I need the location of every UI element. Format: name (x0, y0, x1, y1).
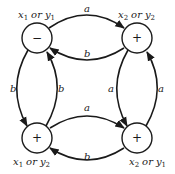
edge-label-right-inner-a: a (108, 83, 114, 94)
edge-tl-to-tr-a (49, 15, 124, 28)
transition-diagram: a b b b a a a b − + + + x1ory1 x2ory2 (0, 0, 175, 174)
node-top-left: − (22, 23, 52, 53)
edge-br-to-tr-a (146, 52, 157, 126)
edge-label-bottom-b: b (84, 151, 90, 162)
edge-label-bottom-a: a (84, 102, 90, 113)
edge-bl-to-br-a (50, 116, 124, 128)
plus-sign: + (132, 31, 142, 45)
minus-sign: − (32, 31, 42, 45)
edge-label-right-outer-a: a (158, 83, 164, 94)
node-label-bottom-left: x1ory2 (13, 156, 50, 169)
edge-label-top-b: b (84, 48, 90, 59)
edge-label-top-a: a (84, 3, 90, 14)
plus-sign: + (32, 131, 42, 145)
node-label-top-right: x2ory2 (118, 9, 155, 22)
edge-bl-to-tl-b (46, 52, 57, 126)
edge-label-left-inner-b: b (58, 83, 64, 94)
edge-label-left-outer-b: b (10, 83, 16, 94)
node-bottom-left: + (22, 123, 52, 153)
edge-tr-to-br-a (117, 50, 128, 126)
edge-tl-to-bl-b (17, 50, 28, 126)
plus-sign: + (132, 131, 142, 145)
node-label-top-left: x1ory1 (18, 9, 55, 22)
node-bottom-right: + (122, 123, 152, 153)
node-top-right: + (122, 23, 152, 53)
node-label-bottom-right: x2ory1 (129, 156, 166, 169)
